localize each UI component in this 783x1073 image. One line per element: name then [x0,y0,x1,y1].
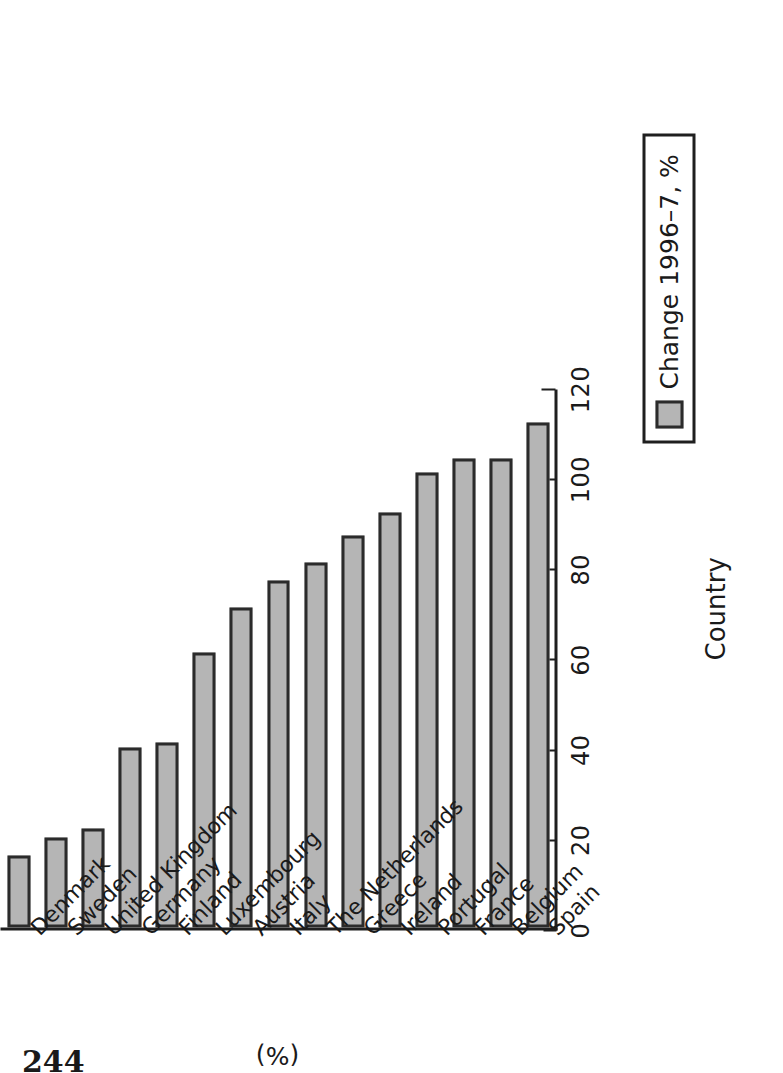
legend-swatch-icon [655,400,683,428]
plot-area: 020406080100120 DenmarkSwedenUnited King… [0,0,783,1073]
category-axis-title: Country [700,557,730,660]
book-page: 020406080100120 DenmarkSwedenUnited King… [0,0,783,1073]
page-number: 244 [22,1044,85,1073]
value-axis-tick-label: 120 [566,365,594,412]
bar [526,422,549,927]
value-axis-tick-label: 100 [566,456,594,503]
value-axis-tick-label: 60 [566,644,594,676]
bar [489,458,512,927]
legend: Change 1996–7, % [642,133,695,443]
value-axis-tick-label: 40 [566,734,594,766]
bar [7,855,30,927]
value-axis-tick-label: 80 [566,554,594,586]
bar [341,535,364,927]
bar [452,458,475,927]
value-axis-title: (%) [255,1041,298,1070]
value-axis-tick-label: 20 [566,824,594,856]
legend-label: Change 1996–7, % [654,154,683,389]
bar-series [0,389,556,927]
rotated-figure: 020406080100120 DenmarkSwedenUnited King… [0,0,783,1073]
